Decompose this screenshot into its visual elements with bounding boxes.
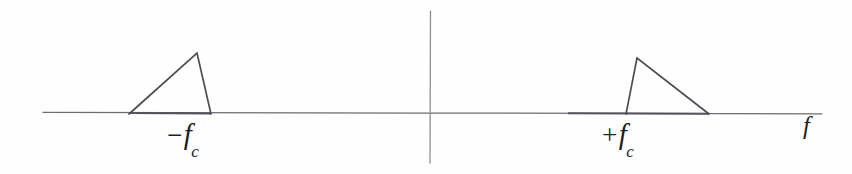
origin-axis-line [430, 11, 431, 163]
lower-lobe-outline [129, 53, 211, 114]
tick-label-negative-carrier: −fc [167, 120, 200, 154]
carrier-subscript-negative: c [191, 142, 199, 161]
spectrum-figure: −fc +fc f [0, 0, 852, 174]
spectrum-drawing [0, 0, 852, 174]
upper-lobe-outline [626, 58, 709, 114]
upper-sideband-lobe [568, 58, 709, 114]
plus-sign-glyph: + [602, 120, 619, 150]
carrier-subscript-positive: c [626, 142, 634, 161]
frequency-axis-label: f [803, 113, 810, 138]
tick-label-positive-carrier: +fc [602, 120, 635, 154]
lower-sideband-lobe [129, 53, 211, 114]
minus-sign-glyph: − [167, 120, 184, 150]
